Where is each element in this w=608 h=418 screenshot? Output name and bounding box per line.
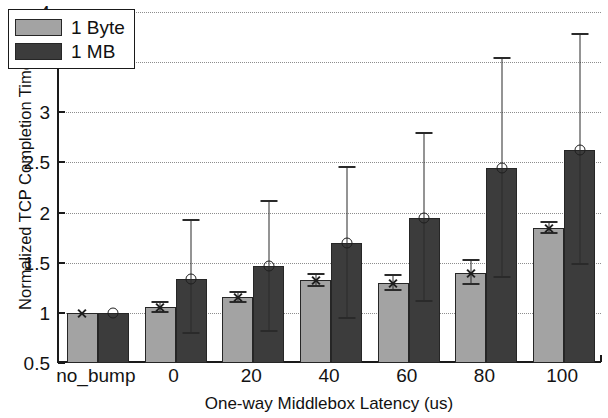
bar xyxy=(533,228,564,363)
x-tick-label: 100 xyxy=(546,366,578,385)
gridline xyxy=(59,162,601,164)
legend-label: 1 Byte xyxy=(71,18,125,37)
error-bar-cap-upper xyxy=(416,132,433,134)
x-marker-icon xyxy=(543,222,554,233)
x-axis-right-cap xyxy=(600,355,602,362)
error-bar-cap-lower xyxy=(260,330,277,332)
x-tick-label: no_bump xyxy=(56,366,135,385)
plot-area xyxy=(57,12,601,363)
y-tick-mark xyxy=(58,111,65,113)
x-marker-icon xyxy=(232,291,243,302)
x-tick-label-group: no_bump020406080100 xyxy=(57,366,601,392)
y-tick-label: 2.5 xyxy=(2,153,50,172)
x-tick-label: 20 xyxy=(241,366,262,385)
x-marker-icon xyxy=(77,307,88,318)
chart-legend: 1 Byte1 MB xyxy=(8,9,135,69)
error-bar-cap-lower xyxy=(462,283,479,285)
bar xyxy=(67,313,98,363)
y-tick-mark xyxy=(58,212,65,214)
legend-label: 1 MB xyxy=(71,42,115,61)
gridline xyxy=(59,263,601,265)
x-tick-label: 40 xyxy=(318,366,339,385)
gridline xyxy=(59,62,601,64)
bar xyxy=(300,280,331,363)
gridline xyxy=(59,12,601,14)
error-bar-cap-upper xyxy=(571,33,588,35)
error-bar-cap-lower xyxy=(416,300,433,302)
chart-figure: Normalized TCP Completion Time 0.511.522… xyxy=(0,0,608,418)
y-tick-label: 0.5 xyxy=(2,354,50,373)
y-tick-mark xyxy=(58,262,65,264)
circle-marker-icon xyxy=(263,260,274,271)
gridline xyxy=(59,112,601,114)
legend-item[interactable]: 1 Byte xyxy=(15,15,125,39)
bar xyxy=(145,307,176,363)
x-tick-label: 80 xyxy=(474,366,495,385)
circle-marker-icon xyxy=(341,237,352,248)
bar xyxy=(222,297,253,363)
y-tick-mark xyxy=(58,362,65,364)
y-tick-mark xyxy=(58,312,65,314)
legend-swatch-icon xyxy=(15,19,62,36)
x-tick-label: 60 xyxy=(396,366,417,385)
error-bar-cap-upper xyxy=(260,200,277,202)
y-tick-label: 3 xyxy=(2,103,50,122)
y-tick-label: 1.5 xyxy=(2,254,50,273)
y-tick-mark xyxy=(58,161,65,163)
error-bar-cap-lower xyxy=(338,317,355,319)
y-tick-label: 1 xyxy=(2,304,50,323)
y-tick-label: 2 xyxy=(2,204,50,223)
error-bar-cap-lower xyxy=(183,332,200,334)
x-axis-title: One-way Middlebox Latency (us) xyxy=(57,394,601,414)
error-bar-cap-upper xyxy=(385,274,402,276)
x-marker-icon xyxy=(465,267,476,278)
error-bar-cap-lower xyxy=(571,263,588,265)
error-bar-cap-lower xyxy=(493,276,510,278)
bar xyxy=(378,283,409,363)
x-marker-icon xyxy=(388,277,399,288)
circle-marker-icon xyxy=(574,145,585,156)
error-bar-cap-upper xyxy=(338,166,355,168)
x-marker-icon xyxy=(155,301,166,312)
circle-marker-icon xyxy=(419,212,430,223)
bar xyxy=(455,273,486,363)
circle-marker-icon xyxy=(496,163,507,174)
error-bar-cap-lower xyxy=(385,289,402,291)
circle-marker-icon xyxy=(186,273,197,284)
x-marker-icon xyxy=(310,274,321,285)
legend-swatch-icon xyxy=(15,43,62,60)
error-bar-cap-upper xyxy=(493,57,510,59)
error-bar-cap-upper xyxy=(462,259,479,261)
error-bar-cap-upper xyxy=(183,219,200,221)
circle-marker-icon xyxy=(108,307,119,318)
bar xyxy=(98,313,129,363)
gridline xyxy=(59,213,601,215)
x-tick-label: 0 xyxy=(168,366,179,385)
legend-item[interactable]: 1 MB xyxy=(15,39,125,63)
